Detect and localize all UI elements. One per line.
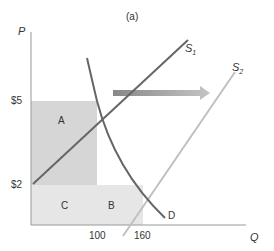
region-a	[31, 101, 97, 185]
label-s1: S1	[185, 42, 196, 56]
chart-title: (a)	[126, 11, 138, 22]
label-region-a: A	[58, 115, 65, 126]
supply-curve-s2	[123, 72, 235, 236]
tick-price-high: $5	[11, 95, 22, 106]
y-axis-label: P	[18, 25, 25, 37]
tick-qty-160: 160	[134, 230, 151, 241]
label-region-b: B	[108, 200, 115, 211]
label-region-c: C	[61, 200, 68, 211]
tick-qty-100: 100	[89, 230, 106, 241]
x-axis-label: Q	[250, 231, 259, 243]
chart-canvas	[0, 0, 274, 251]
label-s2-sub: 2	[239, 68, 243, 75]
label-demand: D	[168, 210, 175, 221]
region-bc	[31, 185, 143, 225]
shift-arrow-icon	[113, 86, 210, 100]
tick-price-low: $2	[11, 179, 22, 190]
label-s2: S2	[232, 61, 243, 75]
label-s1-sub: 1	[192, 49, 196, 56]
